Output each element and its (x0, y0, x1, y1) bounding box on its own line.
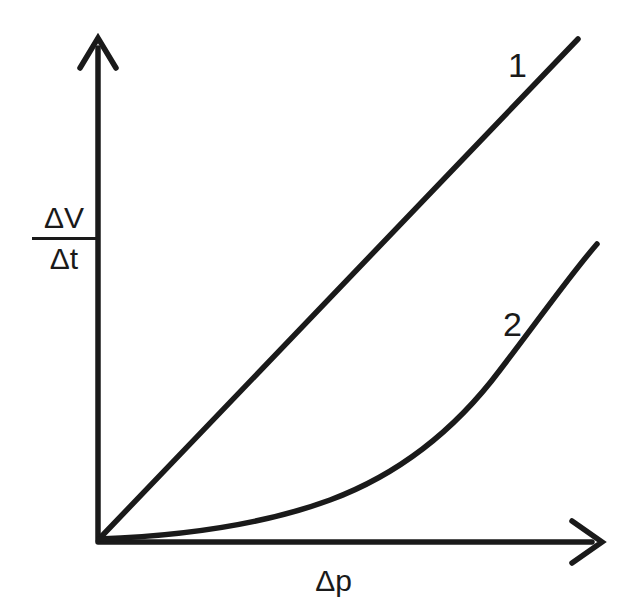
x-axis-label-wrapper: Δp (0, 566, 639, 596)
series-1-label: 1 (508, 48, 527, 82)
chart-figure: ΔV Δt Δp 1 2 (0, 0, 639, 616)
series-2-curve (99, 244, 597, 539)
series-1-line (99, 39, 578, 539)
y-axis-label: ΔV Δt (22, 202, 106, 276)
fraction-bar (32, 237, 96, 240)
y-axis-label-numerator: ΔV (41, 202, 87, 234)
y-axis-label-denominator: Δt (47, 243, 81, 275)
series-2-label: 2 (503, 307, 522, 341)
plot-canvas (0, 0, 639, 616)
x-axis-label: Δp (315, 564, 352, 597)
